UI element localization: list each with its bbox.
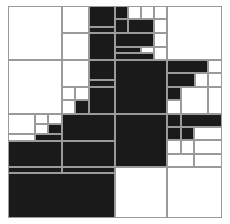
quadtree-cell-white <box>8 60 62 114</box>
quadtree-cell-white <box>167 140 181 154</box>
quadtree-cell-white <box>62 100 75 114</box>
quadtree-cell-white <box>8 134 35 141</box>
quadtree-cell-black <box>62 141 115 167</box>
quadtree-cell-black <box>115 53 154 60</box>
quadtree-cell-white <box>154 19 167 33</box>
quadtree-cell-white <box>208 73 222 87</box>
quadtree-canvas <box>0 0 230 224</box>
quadtree-cell-white <box>8 6 62 60</box>
quadtree-cell-white <box>154 47 167 60</box>
quadtree-cell-black <box>181 114 222 127</box>
quadtree-cell-black <box>62 114 115 141</box>
quadtree-cell-black <box>8 141 62 167</box>
quadtree-cell-black <box>128 19 154 33</box>
quadtree-cell-white <box>141 6 154 19</box>
quadtree-cell-white <box>48 114 62 124</box>
quadtree-cell-white <box>154 6 167 19</box>
quadtree-cell-white <box>195 73 208 87</box>
quadtree-cell-black <box>167 73 195 87</box>
quadtree-cell-black <box>115 33 154 47</box>
quadtree-cell-white <box>35 114 48 124</box>
quadtree-cell-white <box>167 167 222 218</box>
quadtree-cell-black <box>89 6 115 27</box>
quadtree-cell-black <box>115 19 128 33</box>
quadtree-cell-white <box>167 154 194 167</box>
quadtree-cell-black <box>181 127 194 140</box>
quadtree-cell-white <box>115 167 167 218</box>
quadtree-cell-white <box>154 33 167 47</box>
quadtree-cell-white <box>167 6 222 60</box>
quadtree-cell-white <box>35 124 48 134</box>
quadtree-cell-white <box>8 114 35 134</box>
quadtree-cell-black <box>75 100 89 114</box>
quadtree-cell-white <box>181 140 194 154</box>
quadtree-figure <box>0 0 230 224</box>
quadtree-cell-white <box>75 87 89 100</box>
quadtree-cell-black <box>167 60 208 73</box>
quadtree-cell-black <box>167 127 181 140</box>
quadtree-cell-white <box>208 87 222 114</box>
quadtree-cell-white <box>62 33 89 60</box>
quadtree-cell-white <box>62 87 75 100</box>
quadtree-cell-white <box>128 6 141 19</box>
quadtree-cell-black <box>89 60 115 80</box>
quadtree-cell-white <box>62 6 89 33</box>
quadtree-cell-white <box>194 140 222 154</box>
quadtree-cell-black <box>35 134 62 141</box>
quadtree-cell-black <box>115 6 128 19</box>
quadtree-cell-black <box>167 87 181 100</box>
quadtree-cell-black <box>48 124 62 134</box>
quadtree-cell-black <box>167 114 181 127</box>
quadtree-cell-black <box>89 33 115 60</box>
quadtree-cell-black <box>115 60 167 114</box>
quadtree-cell-black <box>89 80 115 87</box>
quadtree-cell-black <box>115 114 167 167</box>
quadtree-cell-white <box>208 60 222 73</box>
quadtree-cell-white <box>62 60 89 87</box>
quadtree-cell-white <box>167 100 181 114</box>
quadtree-cell-white <box>194 127 222 140</box>
quadtree-cell-black <box>89 87 115 114</box>
quadtree-cell-white <box>181 87 208 114</box>
quadtree-cell-black <box>8 173 115 218</box>
quadtree-cell-white <box>194 154 222 167</box>
